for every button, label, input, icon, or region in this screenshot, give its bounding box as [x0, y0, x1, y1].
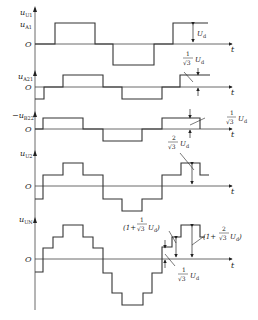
waveform-diagram: uU1 uA1 O t Ud uA21 O t 1 √3 Ud −uB22 O … [0, 0, 258, 320]
panel-uA21: uA21 O t 1 √3 Ud [18, 50, 235, 99]
origin-label: O [25, 125, 32, 134]
origin-label: O [25, 255, 32, 264]
annotation-num: 1 [182, 266, 186, 273]
t-label: t [231, 88, 235, 97]
ylabel-uA21: uA21 [18, 72, 33, 82]
waveform-uU2 [35, 163, 209, 211]
axis-arrow-up-icon [33, 217, 37, 223]
axis-arrow-up-icon [33, 6, 37, 12]
origin-label: O [25, 83, 32, 92]
panel-uU2: uU2 O t 2 √3 Ud [20, 134, 235, 211]
t-label: t [231, 45, 235, 54]
annotation-num: 2 [222, 225, 226, 232]
annotation-Ud: Ud [195, 56, 205, 65]
leader-line [192, 237, 203, 245]
annotation-den: √3 [168, 143, 176, 150]
ylabel-uB22: −uB22 [12, 111, 34, 121]
panel-uU1: uU1 uA1 O t Ud [20, 6, 235, 65]
annotation-num: 1 [140, 216, 144, 223]
axis-arrow-up-icon [33, 70, 37, 76]
origin-label: O [25, 40, 32, 49]
leader-line [165, 254, 175, 266]
annotation-den: √3 [178, 275, 186, 282]
waveform-uUN [35, 225, 205, 305]
annotation-den: √3 [226, 118, 234, 125]
annotation-1-plus-two-inv-sqrt3: (1+ [203, 233, 216, 241]
leader-line [190, 118, 205, 125]
leader-line [184, 72, 193, 82]
annotation-1-plus-inv-sqrt3: (1+ [123, 224, 136, 232]
annotation-num: 1 [186, 50, 190, 57]
annotation-Ud: Ud [238, 115, 248, 124]
t-label: t [231, 187, 235, 196]
ylabel-uA1: uA1 [20, 20, 32, 30]
annotation-Ud: Ud [190, 272, 200, 281]
ylabel-uU2: uU2 [20, 149, 33, 159]
axis-arrow-up-icon [33, 150, 37, 156]
panel-uB22: −uB22 O t 1 √3 Ud [12, 109, 248, 141]
annotation-den: √3 [137, 225, 145, 232]
annotation-num: 1 [230, 109, 234, 116]
leader-line [180, 153, 194, 170]
annotation-num: 2 [172, 134, 176, 141]
annotation-Ud: Ud [197, 30, 207, 39]
annotation-den: √3 [183, 59, 191, 66]
ylabel-uUN: uUN [19, 215, 33, 225]
ylabel-uU1: uU1 [20, 8, 33, 18]
annotation-Ud: Ud [180, 140, 190, 149]
origin-label: O [25, 182, 32, 191]
annotation-Ud: Ud) [230, 233, 242, 242]
annotation-Ud: Ud) [148, 224, 160, 233]
t-label: t [231, 130, 235, 139]
panel-uUN: uUN O t (1+ 1 √3 Ud) (1+ 2 √3 Ud) 1 √3 U… [19, 215, 242, 305]
t-label: t [231, 261, 235, 270]
annotation-den: √3 [219, 234, 227, 241]
